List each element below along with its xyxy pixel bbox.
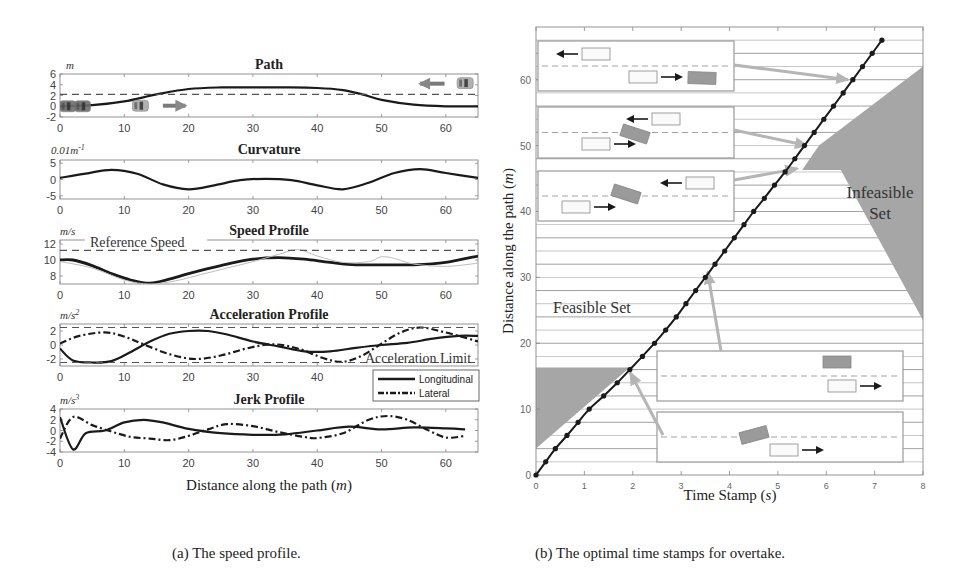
y-tick-label: 4 — [50, 79, 56, 91]
trajectory-marker — [587, 407, 592, 412]
trajectory-marker — [533, 472, 538, 477]
y-tick-label: 0 — [50, 100, 56, 112]
y-tick-label: 0 — [50, 425, 56, 437]
x-tick-label: 40 — [311, 457, 323, 469]
y-tick-label: -4 — [46, 446, 56, 458]
x-tick-label: 60 — [440, 204, 452, 216]
y-unit-label: m/s — [60, 225, 75, 237]
x-tick-label: 1 — [582, 481, 587, 491]
path-subplot: 0102030405060-20246Pathm — [46, 57, 478, 134]
trajectory-marker — [703, 275, 708, 280]
vehicle-icon — [629, 71, 657, 83]
x-tick-label: 30 — [247, 204, 259, 216]
x-tick-label: 40 — [311, 371, 323, 383]
caption-a: (a) The speed profile. — [172, 545, 301, 562]
y-tick-label: -2 — [46, 435, 56, 447]
x-tick-label: 2 — [630, 481, 635, 491]
y-tick-label: 40 — [520, 206, 532, 217]
scenario-inset — [538, 107, 734, 158]
legend-longitudinal-label: Longitudinal — [419, 374, 473, 385]
x-tick-label: 40 — [311, 204, 323, 216]
x-tick-label: 50 — [375, 457, 387, 469]
x-tick-label: 20 — [182, 289, 194, 301]
speed-profile-panel: 0102030405060-20246Pathm 0102030405060-5… — [44, 57, 479, 494]
car-icon — [75, 101, 91, 112]
x-tick-label: 40 — [311, 122, 323, 134]
vehicle-icon — [686, 177, 714, 189]
x-tick-label: 0 — [57, 122, 63, 134]
vehicle-icon — [582, 48, 610, 60]
y-tick-label: 6 — [50, 68, 56, 80]
y-unit-label: 0.01m-1 — [51, 143, 85, 156]
caption-b: (b) The optimal time stamps for overtake… — [535, 545, 785, 562]
scenario-inset — [657, 351, 903, 401]
curvature-subplot: 0102030405060-505Curvature0.01m-1 — [46, 142, 478, 216]
right-y-axis-label: Distance along the path (m) — [500, 168, 517, 334]
x-tick-label: 30 — [247, 371, 259, 383]
y-tick-label: 30 — [520, 272, 532, 283]
horizontal-grid — [536, 27, 923, 475]
y-tick-label: -2 — [46, 353, 56, 365]
trajectory-marker — [627, 367, 632, 372]
figure: 0102030405060-20246Pathm 0102030405060-5… — [0, 0, 957, 585]
y-unit-label: m — [66, 59, 74, 71]
trajectory-marker — [564, 433, 569, 438]
vehicle-icon — [582, 138, 610, 150]
y-tick-label: 5 — [50, 157, 56, 169]
trajectory-marker — [693, 288, 698, 293]
y-unit-label: m/s3 — [60, 393, 79, 406]
x-tick-label: 40 — [311, 289, 323, 301]
trajectory-marker — [553, 446, 558, 451]
trajectory-marker — [601, 393, 606, 398]
scenario-inset — [538, 171, 734, 221]
vehicle-icon — [823, 356, 851, 368]
x-tick-label: 30 — [247, 289, 259, 301]
x-tick-label: 50 — [375, 289, 387, 301]
trajectory-marker — [674, 314, 679, 319]
vehicle-icon — [688, 72, 716, 85]
x-tick-label: 10 — [118, 204, 130, 216]
y-unit-label: m/s2 — [60, 308, 79, 321]
feasible-set-label: Feasible Set — [553, 299, 631, 316]
x-tick-label: 20 — [182, 122, 194, 134]
y-tick-label: 20 — [520, 338, 532, 349]
infeasible-set-label-1: Infeasible — [846, 183, 913, 202]
car-icon — [457, 78, 473, 89]
x-tick-label: 10 — [118, 371, 130, 383]
trajectory-marker — [712, 262, 717, 267]
trajectory-marker — [722, 248, 727, 253]
car-icon — [60, 101, 76, 112]
trajectory-marker — [543, 459, 548, 464]
scenario-inset — [657, 412, 903, 462]
x-tick-label: 0 — [57, 204, 63, 216]
y-tick-label: 8 — [50, 270, 56, 282]
reference-speed-label: Reference Speed — [90, 235, 184, 250]
trajectory-marker — [879, 38, 884, 43]
trajectory-marker — [615, 380, 620, 385]
x-tick-label: 50 — [375, 204, 387, 216]
trajectory-marker — [860, 64, 865, 69]
y-tick-label: 4 — [50, 403, 56, 415]
y-tick-label: 0 — [50, 174, 56, 186]
x-tick-label: 10 — [118, 457, 130, 469]
trajectory-marker — [741, 222, 746, 227]
trajectory-marker — [772, 183, 777, 188]
trajectory-marker — [850, 77, 855, 82]
x-tick-label: 10 — [118, 289, 130, 301]
y-tick-label: 0 — [525, 470, 531, 481]
subplot-title: Path — [255, 57, 283, 72]
y-tick-label: -5 — [46, 190, 56, 202]
infeasible-set-label-2: Set — [869, 204, 891, 223]
legend-lateral-label: Lateral — [419, 388, 450, 399]
subplot-title: Jerk Profile — [234, 392, 305, 407]
x-tick-label: 6 — [824, 481, 829, 491]
trajectory-marker — [575, 420, 580, 425]
y-tick-label: 2 — [50, 414, 56, 426]
trajectory-marker — [792, 156, 797, 161]
scenario-inset — [538, 41, 734, 91]
x-tick-label: 30 — [247, 457, 259, 469]
plot-area — [60, 74, 478, 117]
x-tick-label: 20 — [182, 457, 194, 469]
trajectory-marker — [663, 327, 668, 332]
car-icon — [132, 100, 148, 111]
